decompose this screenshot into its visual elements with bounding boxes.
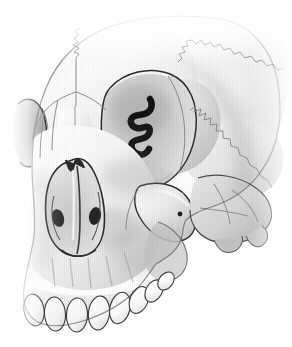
left-fade [0,0,46,347]
skull-illustration: Human Skull — Anterolateral (Three-Quart… [0,0,292,347]
right-fade [252,0,292,347]
skull-drawing-canvas [0,0,292,347]
